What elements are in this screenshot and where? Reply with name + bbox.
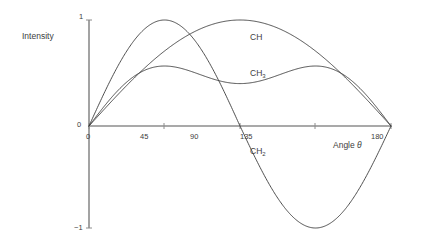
x-axis-title: Angle θ xyxy=(333,141,362,150)
series-label-ch2-base: CH xyxy=(250,146,262,156)
y-tick-label-0: 0 xyxy=(77,121,81,129)
series-label-ch2: CH2 xyxy=(250,147,266,156)
theta-symbol: θ xyxy=(357,140,362,150)
y-tick-label-minus-1: −1 xyxy=(74,224,83,232)
x-tick-label-90: 90 xyxy=(190,133,198,141)
chart-plot-area xyxy=(0,0,427,243)
y-axis-title: Intensity xyxy=(22,32,54,41)
series-label-ch3-base: CH xyxy=(250,68,262,78)
y-tick-label-1: 1 xyxy=(79,13,83,21)
x-tick-label-135: 135 xyxy=(240,133,253,141)
x-axis-title-text: Angle xyxy=(333,140,357,150)
x-tick-label-180: 180 xyxy=(371,133,384,141)
series-label-ch3: CH3 xyxy=(250,69,266,78)
curve-ch xyxy=(89,20,391,126)
curve-ch3 xyxy=(89,66,391,126)
x-tick-label-45: 45 xyxy=(140,133,148,141)
series-label-ch2-sub: 2 xyxy=(262,151,265,157)
x-tick-label-0: 0 xyxy=(86,133,90,141)
chart-figure: Intensity Angle θ 1 0 −1 0 45 90 135 180… xyxy=(0,0,427,243)
series-label-ch3-sub: 3 xyxy=(262,73,265,79)
series-label-ch: CH xyxy=(250,33,262,42)
